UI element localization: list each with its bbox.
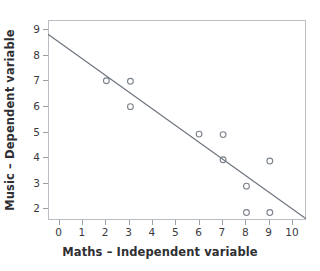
- y-tick-mark: [43, 80, 48, 81]
- x-tick-label: 5: [172, 226, 179, 238]
- y-tick-label: 3: [33, 177, 40, 189]
- y-tick-mark: [43, 157, 48, 158]
- x-tick-mark: [129, 220, 130, 225]
- y-tick-label: 5: [33, 126, 40, 138]
- y-tick-mark: [43, 106, 48, 107]
- trend-line: [48, 34, 306, 218]
- x-tick-label: 7: [219, 226, 226, 238]
- x-tick-label: 2: [102, 226, 109, 238]
- y-tick-label: 9: [33, 23, 40, 35]
- cropped-chart-title: [155, 0, 245, 5]
- scatter-point: [267, 158, 273, 164]
- x-tick-label: 9: [265, 226, 272, 238]
- scatter-point: [220, 132, 226, 138]
- scatter-point: [128, 104, 134, 110]
- y-tick-label: 4: [33, 151, 40, 163]
- x-tick-mark: [222, 220, 223, 225]
- x-tick-mark: [59, 220, 60, 225]
- x-tick-mark: [292, 220, 293, 225]
- y-tick-mark: [43, 132, 48, 133]
- y-tick-label: 7: [33, 74, 40, 86]
- x-tick-mark: [269, 220, 270, 225]
- y-tick-label: 2: [33, 202, 40, 214]
- x-tick-label: 8: [242, 226, 249, 238]
- x-tick-mark: [245, 220, 246, 225]
- scatter-point: [128, 78, 134, 84]
- x-tick-mark: [152, 220, 153, 225]
- scatter-point: [267, 210, 273, 216]
- x-tick-mark: [105, 220, 106, 225]
- plot-area: [48, 20, 306, 220]
- x-axis-title: Maths – Independent variable: [0, 245, 320, 259]
- y-tick-mark: [43, 29, 48, 30]
- scatter-point: [196, 131, 202, 137]
- y-axis-title: Music – Dependent variable: [3, 29, 17, 210]
- x-tick-label: 6: [195, 226, 202, 238]
- y-tick-mark: [43, 183, 48, 184]
- y-tick-label: 6: [33, 100, 40, 112]
- y-tick-mark: [43, 55, 48, 56]
- x-tick-label: 3: [125, 226, 132, 238]
- x-tick-label: 0: [55, 226, 62, 238]
- x-tick-label: 10: [285, 226, 298, 238]
- x-tick-mark: [82, 220, 83, 225]
- y-tick-label: 8: [33, 49, 40, 61]
- scatter-point: [244, 183, 250, 189]
- scatter-point: [103, 78, 109, 84]
- x-tick-mark: [175, 220, 176, 225]
- scatter-point: [244, 210, 250, 216]
- x-tick-label: 4: [149, 226, 156, 238]
- x-tick-label: 1: [79, 226, 86, 238]
- x-tick-mark: [199, 220, 200, 225]
- y-tick-mark: [43, 208, 48, 209]
- chart-canvas: 012345678910 23456789 Maths – Independen…: [0, 0, 320, 271]
